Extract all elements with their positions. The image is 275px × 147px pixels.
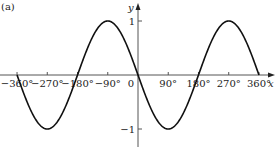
panel-label: (a) [1, 1, 15, 12]
x-tick-label: 90° [159, 78, 177, 89]
y-tick-label: −1 [120, 124, 135, 135]
x-axis-arrow-icon [268, 73, 275, 78]
x-tick-label: −360° [1, 78, 33, 89]
y-axis-arrow-icon [136, 3, 141, 10]
x-tick-label: 0 [128, 78, 134, 89]
y-axis-label: y [127, 2, 134, 13]
x-tick-label: 270° [217, 78, 241, 89]
sine-chart: (a) −360°−270°−180°−90°090°180°270°360°1… [0, 0, 275, 147]
x-axis-label: x [268, 78, 274, 89]
x-tick-label: −180° [61, 78, 93, 89]
y-tick-label: 1 [129, 16, 135, 27]
x-tick-label: 180° [186, 78, 210, 89]
x-tick-label: −90° [95, 78, 121, 89]
x-tick-label: −270° [31, 78, 63, 89]
